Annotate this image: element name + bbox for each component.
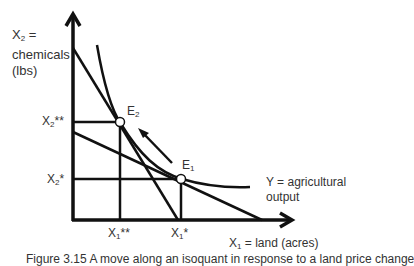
y-axis-label: X2 = chemicals (lbs) (12, 27, 70, 79)
tick-label-x1-double-star: X1** (108, 226, 130, 244)
figure-caption: Figure 3.15 A move along an isoquant in … (26, 252, 414, 266)
budget-line-flat (73, 132, 262, 220)
point-e2 (116, 118, 125, 127)
tick-label-x1-star: X1* (171, 226, 188, 244)
label-e1: E1 (182, 158, 194, 176)
isoquant-label: Y = agricultural output (266, 175, 346, 205)
tick-label-x2-star: X2* (47, 172, 64, 190)
label-e2: E2 (127, 104, 139, 122)
tick-label-x2-double-star: X2** (42, 114, 64, 132)
budget-line-steep (73, 48, 178, 220)
